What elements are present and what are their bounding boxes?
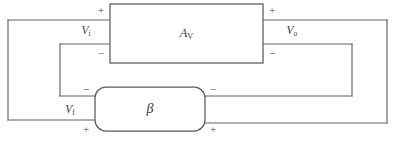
diagram-canvas: AVβ +−+−−+−+ ViVoVf bbox=[0, 0, 394, 149]
amplifier-input-plus-sign: + bbox=[98, 4, 104, 16]
amplifier-output-plus-sign: + bbox=[269, 4, 275, 16]
feedback-amplifier-diagram: AVβ +−+−−+−+ ViVoVf bbox=[0, 0, 394, 149]
feedback-left-plus-sign: + bbox=[83, 123, 89, 135]
amplifier-input-minus-sign: − bbox=[98, 47, 104, 59]
feedback-right-minus-sign: − bbox=[210, 83, 216, 95]
feedback-right-plus-sign: + bbox=[210, 123, 216, 135]
amplifier-output-minus-sign: − bbox=[269, 47, 275, 59]
feedback-left-minus-sign: − bbox=[83, 83, 89, 95]
feedback-block-label: β bbox=[146, 101, 154, 116]
